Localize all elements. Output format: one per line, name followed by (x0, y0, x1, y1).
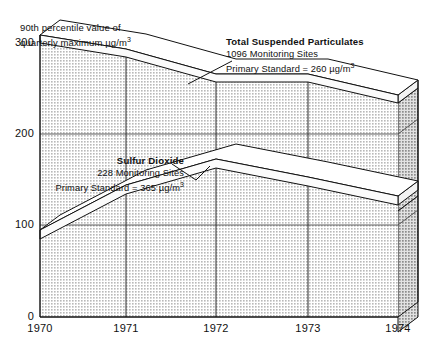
annotation-so2-standard-text: Primary Standard = 365 µg/m (55, 184, 180, 194)
x-tick-label-1972: 1972 (194, 322, 238, 334)
annotation-so2-sites: 228 Monitoring Sites (16, 167, 184, 179)
x-tick-label-1974: 1974 (376, 322, 420, 334)
x-tick-label-1973: 1973 (286, 322, 330, 334)
y-axis-title-superscript: 3 (127, 36, 131, 43)
annotation-tsp-heading: Total Suspended Particulates (226, 36, 364, 48)
y-tick-label-200: 200 (0, 127, 34, 139)
annotation-tsp-standard-superscript: 3 (351, 62, 355, 69)
y-axis-title-text: 90th percentile value of quarterly maxim… (20, 22, 127, 49)
y-axis-title: 90th percentile value of quarterly maxim… (20, 9, 210, 50)
x-tick-label-1971: 1971 (104, 322, 148, 334)
y-tick-label-0: 0 (0, 310, 34, 322)
annotation-tsp-sites: 1096 Monitoring Sites (226, 48, 364, 60)
y-tick-label-100: 100 (0, 218, 34, 230)
annotation-tsp-standard-text: Primary Standard = 260 µg/m (226, 65, 351, 75)
annotation-so2-heading: Sulfur Dioxide (16, 155, 184, 167)
annotation-so2-standard-superscript: 3 (180, 181, 184, 188)
annotation-total-suspended-particulates: Total Suspended Particulates 1096 Monito… (226, 36, 364, 76)
annotation-tsp-standard: Primary Standard = 260 µg/m3 (226, 60, 364, 75)
chart-root: 90th percentile value of quarterly maxim… (0, 0, 430, 347)
x-tick-label-1970: 1970 (18, 322, 62, 334)
annotation-sulfur-dioxide: Sulfur Dioxide 228 Monitoring Sites Prim… (16, 155, 184, 195)
annotation-so2-standard: Primary Standard = 365 µg/m3 (16, 179, 184, 194)
y-tick-label-300: 300 (0, 36, 34, 48)
